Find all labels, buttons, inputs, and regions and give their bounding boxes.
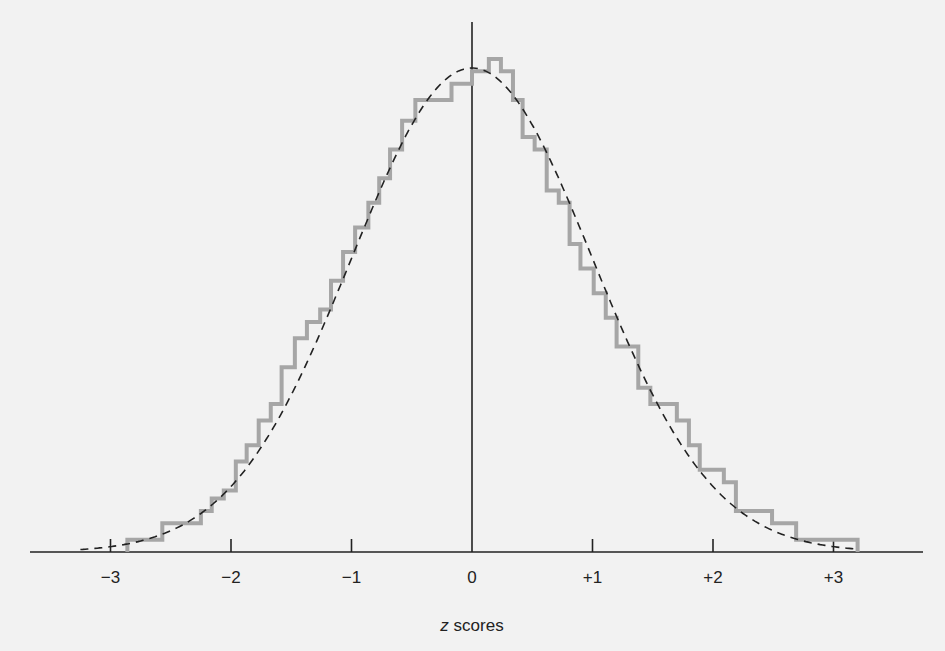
x-tick-label: −3 [101, 568, 120, 588]
x-tick-label: +2 [703, 568, 722, 588]
x-tick-label: +3 [824, 568, 843, 588]
z-score-distribution-chart [0, 0, 945, 651]
x-tick-label: −2 [221, 568, 240, 588]
normal-curve-dashed-line [80, 68, 858, 550]
x-tick-label: −1 [342, 568, 361, 588]
x-tick-label: 0 [467, 568, 476, 588]
x-tick-label: +1 [583, 568, 602, 588]
observed-distribution-step-line [127, 59, 857, 552]
x-axis-title-text: scores [449, 616, 504, 635]
x-axis-title: z scores [440, 616, 503, 636]
x-axis-title-variable: z [440, 616, 449, 635]
